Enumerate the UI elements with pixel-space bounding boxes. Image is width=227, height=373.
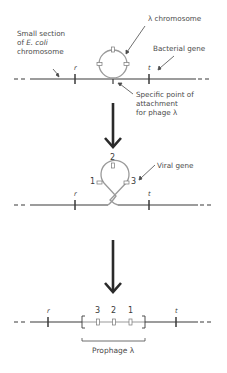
gene-t-1: t [148,64,151,72]
pointer-arrow-viral [139,165,155,180]
ecoli-chromosome-1 [14,74,212,84]
prophage-gene-1: 1 [128,306,133,315]
gene-t-2: t [148,190,151,198]
attachment-label: Specific point of attachment for phage λ [136,90,194,117]
ecoli-chromosome-3 [14,316,212,341]
ecoli-chromosome-2 [14,200,212,210]
bacterial-gene-label: Bacterial gene [153,44,205,53]
prophage-gene-2: 2 [111,306,116,315]
lambda-loop [97,160,129,205]
gene-t-3: t [175,307,178,315]
lambda-chromosome-label: λ chromosome [148,14,201,23]
viral-gene-label: Viral gene [157,161,193,170]
ecoli-label: Small section of E. coli chromosome [17,29,65,56]
gene-r-3: r [47,307,50,315]
viral-gene-3: 3 [131,177,136,186]
gene-r-2: r [74,190,77,198]
transition-arrow-1 [105,103,121,147]
viral-gene-2: 2 [110,153,115,162]
viral-gene-1: 1 [90,177,95,186]
transition-arrow-2 [105,240,121,292]
prophage-gene-3: 3 [95,306,100,315]
gene-r-1: r [74,64,77,72]
lambda-chromosome-circle [97,47,129,78]
prophage-label: Prophage λ [92,346,134,355]
